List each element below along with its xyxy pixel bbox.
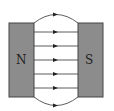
arrow-icons [53,13,58,108]
field-line-bottom-arc [34,97,78,106]
field-line-top-arc [34,15,78,24]
north-pole-label: N [16,53,27,67]
south-pole-label: S [85,53,93,67]
